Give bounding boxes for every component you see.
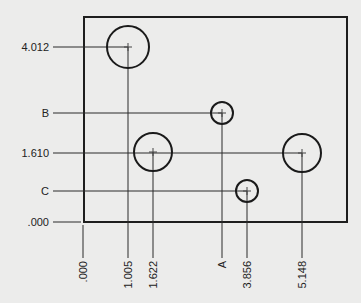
y-dimension-label: B xyxy=(42,107,49,119)
x-dimension-label: A xyxy=(216,260,228,268)
x-dimension: 1.005 xyxy=(122,47,134,289)
y-dimension-label: 4.012 xyxy=(21,41,49,53)
x-dimension: 1.622 xyxy=(147,152,159,289)
x-dimension-group: .0001.0051.622A3.8565.148 xyxy=(77,47,308,289)
y-dimension: C xyxy=(41,185,247,197)
x-dimension: .000 xyxy=(77,225,89,282)
y-dimension: .000 xyxy=(28,216,81,228)
x-dimension-label: 5.148 xyxy=(296,261,308,289)
y-dimension-label: 1.610 xyxy=(21,147,49,159)
x-dimension: 5.148 xyxy=(296,153,308,289)
x-dimension: 3.856 xyxy=(241,191,253,289)
y-dimension-label: C xyxy=(41,185,49,197)
technical-drawing: 4.012B1.610C.000 .0001.0051.622A3.8565.1… xyxy=(0,0,361,303)
y-dimension: 4.012 xyxy=(21,41,128,53)
x-dimension-label: 3.856 xyxy=(241,261,253,289)
x-dimension-label: .000 xyxy=(77,261,89,282)
x-dimension-label: 1.622 xyxy=(147,261,159,289)
x-dimension-label: 1.005 xyxy=(122,261,134,289)
y-dimension: B xyxy=(42,107,222,119)
y-dimension-label: .000 xyxy=(28,216,49,228)
holes-group xyxy=(107,26,321,202)
y-dimension: 1.610 xyxy=(21,147,302,159)
